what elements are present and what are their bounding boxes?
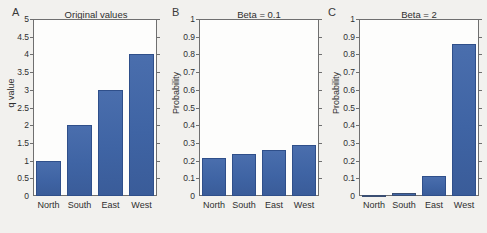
panel-a-y-tick-label: 5 bbox=[1, 15, 29, 24]
panel-a-y-tick-mark-right bbox=[157, 178, 160, 179]
panel-a-y-tick-label: 3.5 bbox=[1, 68, 29, 77]
panel-c-y-tick-mark bbox=[356, 161, 359, 162]
bar-west bbox=[129, 54, 154, 196]
panel-c-y-tick-label: 0.1 bbox=[327, 174, 355, 183]
panel-a-y-tick-mark-right bbox=[157, 72, 160, 73]
panel-a-y-tick-mark bbox=[30, 19, 33, 20]
bar-north bbox=[362, 195, 386, 197]
panel-b-y-tick-mark bbox=[196, 90, 199, 91]
panel-b-y-tick-label: 0.6 bbox=[167, 86, 195, 95]
panel-c-y-tick-label: 0.5 bbox=[327, 104, 355, 113]
panel-b-y-tick-label: 0.8 bbox=[167, 50, 195, 59]
panel-c-y-tick-mark-right bbox=[479, 37, 482, 38]
panel-a-y-tick-mark bbox=[30, 161, 33, 162]
panel-c-y-tick-mark bbox=[356, 19, 359, 20]
panel-c-y-tick-mark-right bbox=[479, 108, 482, 109]
panel-c-y-tick-mark-right bbox=[479, 178, 482, 179]
panel-a-y-tick-mark bbox=[30, 108, 33, 109]
panel-c-y-tick-mark-right bbox=[479, 90, 482, 91]
panel-c-y-tick-label: 0 bbox=[327, 192, 355, 201]
bar-east bbox=[262, 150, 286, 196]
bar-north bbox=[36, 161, 61, 196]
panel-c-y-tick-label: 0.7 bbox=[327, 68, 355, 77]
panel-b-y-tick-label: 0.2 bbox=[167, 157, 195, 166]
panel-b-y-tick-label: 0.7 bbox=[167, 68, 195, 77]
panel-a-y-tick-label: 2 bbox=[1, 121, 29, 130]
bar-south bbox=[232, 154, 256, 196]
panel-a-y-tick-label: 0 bbox=[1, 192, 29, 201]
panel-b-y-tick-mark bbox=[196, 178, 199, 179]
panel-c-y-tick-mark bbox=[356, 72, 359, 73]
panel-c-y-tick-label: 0.3 bbox=[327, 139, 355, 148]
panel-b-y-tick-label: 1 bbox=[167, 15, 195, 24]
panel-c-y-tick-label: 0.4 bbox=[327, 121, 355, 130]
x-tick-label-west: West bbox=[122, 201, 161, 210]
panel-b-y-tick-mark bbox=[196, 143, 199, 144]
panel-b: B Beta = 0.1 Probability 00.10.20.30.40.… bbox=[161, 0, 324, 233]
panel-c-y-tick-label: 0.2 bbox=[327, 157, 355, 166]
panel-b-y-tick-mark bbox=[196, 72, 199, 73]
bar-east bbox=[98, 90, 123, 196]
panel-a-y-tick-mark bbox=[30, 143, 33, 144]
panel-c-y-tick-label: 0.9 bbox=[327, 33, 355, 42]
panel-a-y-tick-mark bbox=[30, 125, 33, 126]
x-tick-label-west: West bbox=[285, 201, 323, 210]
panel-a-y-tick-label: 3 bbox=[1, 86, 29, 95]
bar-south bbox=[392, 193, 416, 196]
panel-a-y-tick-mark-right bbox=[157, 90, 160, 91]
panel-a: A Original values q value 00.511.522.533… bbox=[0, 0, 165, 233]
panel-c-y-tick-mark-right bbox=[479, 125, 482, 126]
panel-a-y-tick-label: 1.5 bbox=[1, 139, 29, 148]
panel-a-y-tick-mark-right bbox=[157, 143, 160, 144]
panel-a-y-tick-mark bbox=[30, 72, 33, 73]
panel-b-y-tick-mark bbox=[196, 19, 199, 20]
panel-c-y-tick-mark bbox=[356, 54, 359, 55]
panel-c-y-tick-mark bbox=[356, 37, 359, 38]
panel-b-y-tick-label: 0 bbox=[167, 192, 195, 201]
panel-c-y-tick-mark-right bbox=[479, 72, 482, 73]
panel-a-y-tick-mark bbox=[30, 54, 33, 55]
panel-a-y-tick-label: 1 bbox=[1, 157, 29, 166]
panel-a-y-tick-mark-right bbox=[157, 54, 160, 55]
panel-c-y-tick-label: 1 bbox=[327, 15, 355, 24]
panel-a-y-tick-label: 4 bbox=[1, 50, 29, 59]
bar-north bbox=[202, 158, 226, 196]
panel-a-y-tick-mark bbox=[30, 90, 33, 91]
panel-b-y-tick-label: 0.4 bbox=[167, 121, 195, 130]
panel-c-y-tick-mark-right bbox=[479, 143, 482, 144]
figure-softmax-panels: A Original values q value 00.511.522.533… bbox=[0, 0, 487, 233]
panel-a-y-tick-mark-right bbox=[157, 19, 160, 20]
bar-west bbox=[452, 44, 476, 196]
bar-west bbox=[292, 145, 316, 196]
panel-c-y-tick-mark bbox=[356, 108, 359, 109]
panel-c-y-tick-mark bbox=[356, 143, 359, 144]
panel-c: C Beta = 2 Probability 00.10.20.30.40.50… bbox=[322, 0, 487, 233]
bar-east bbox=[422, 176, 446, 196]
x-tick-label-west: West bbox=[445, 201, 483, 210]
panel-a-y-tick-label: 2.5 bbox=[1, 104, 29, 113]
panel-b-y-tick-mark bbox=[196, 37, 199, 38]
panel-b-y-tick-label: 0.5 bbox=[167, 104, 195, 113]
panel-b-y-tick-mark bbox=[196, 161, 199, 162]
panel-c-y-tick-mark-right bbox=[479, 161, 482, 162]
panel-b-y-tick-mark bbox=[196, 125, 199, 126]
panel-b-y-tick-mark bbox=[196, 108, 199, 109]
panel-a-y-tick-mark-right bbox=[157, 37, 160, 38]
panel-c-y-tick-mark bbox=[356, 90, 359, 91]
panel-c-y-tick-mark-right bbox=[479, 54, 482, 55]
panel-b-y-tick-mark bbox=[196, 54, 199, 55]
panel-c-y-tick-mark bbox=[356, 178, 359, 179]
panel-b-y-tick-label: 0.3 bbox=[167, 139, 195, 148]
bar-south bbox=[67, 125, 92, 196]
panel-b-y-tick-label: 0.1 bbox=[167, 174, 195, 183]
panel-b-y-tick-label: 0.9 bbox=[167, 33, 195, 42]
panel-a-y-tick-mark bbox=[30, 37, 33, 38]
panel-c-y-tick-label: 0.8 bbox=[327, 50, 355, 59]
panel-c-y-tick-mark-right bbox=[479, 19, 482, 20]
panel-a-y-tick-label: 0.5 bbox=[1, 174, 29, 183]
panel-a-y-tick-mark bbox=[30, 178, 33, 179]
panel-a-y-tick-mark-right bbox=[157, 161, 160, 162]
panel-c-y-tick-mark bbox=[356, 125, 359, 126]
panel-a-y-tick-mark-right bbox=[157, 125, 160, 126]
panel-a-y-tick-label: 4.5 bbox=[1, 33, 29, 42]
